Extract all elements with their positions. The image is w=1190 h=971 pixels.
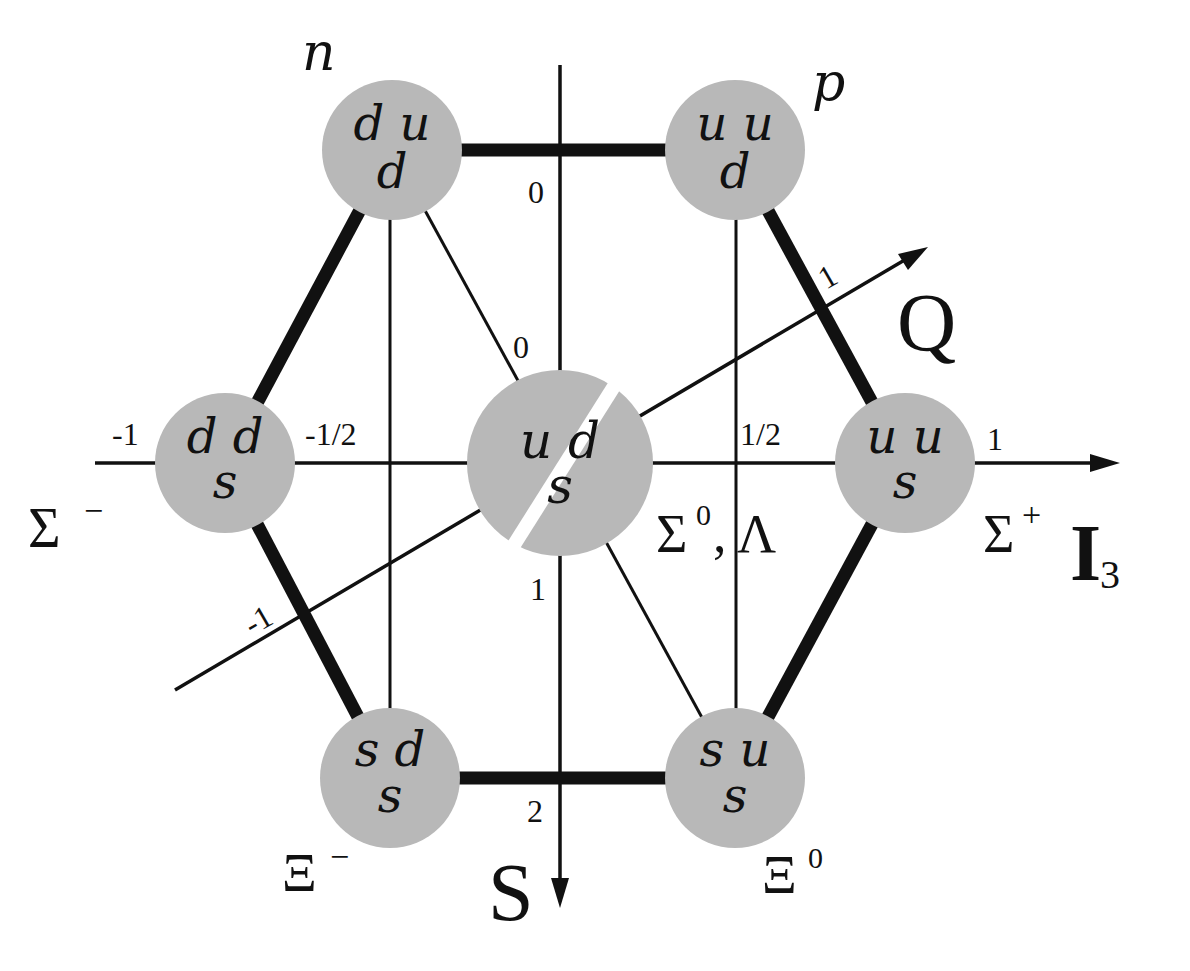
node-sigma-plus: u u s xyxy=(835,393,975,533)
label-xi-minus: Ξ − xyxy=(282,838,349,903)
label-p: p xyxy=(812,52,845,112)
svg-text:Ξ: Ξ xyxy=(762,845,797,905)
axis-title-q: Q xyxy=(897,277,956,368)
tick-q-minus-1: -1 xyxy=(238,598,279,643)
svg-text:s: s xyxy=(213,453,238,509)
axis-title-s: S xyxy=(488,847,534,938)
label-sigma-plus: Σ + xyxy=(983,496,1041,564)
svg-text:s: s xyxy=(893,453,918,509)
svg-text:I: I xyxy=(1070,509,1101,597)
svg-text:−: − xyxy=(84,492,103,529)
node-p: u u d xyxy=(665,80,805,220)
label-sigma0-lambda: Σ 0 , Λ xyxy=(656,498,776,564)
svg-text:0: 0 xyxy=(696,498,711,531)
tick-i3-plus-1: 1 xyxy=(987,421,1003,457)
tick-q-0: 0 xyxy=(513,329,529,365)
axis-title-i3: I 3 xyxy=(1070,509,1120,597)
svg-text:3: 3 xyxy=(1100,552,1120,597)
svg-text:Σ: Σ xyxy=(28,497,61,559)
svg-text:+: + xyxy=(1022,496,1041,533)
svg-text:−: − xyxy=(330,838,349,875)
svg-text:Ξ: Ξ xyxy=(282,843,317,903)
svg-text:d: d xyxy=(720,143,751,199)
baryon-octet-diagram: d u d u u d d d s u d s u u s s d s s u … xyxy=(0,0,1190,971)
label-xi-zero: Ξ 0 xyxy=(762,841,823,905)
node-xi-minus: s d s xyxy=(320,708,460,848)
tick-i3-minus-half: -1/2 xyxy=(305,416,357,452)
svg-text:Σ: Σ xyxy=(983,504,1014,564)
tick-i3-minus-1: -1 xyxy=(112,416,139,452)
node-sigma0-lambda: u d s xyxy=(467,370,653,556)
label-sigma-minus: Σ − xyxy=(28,492,103,559)
svg-text:s: s xyxy=(723,767,748,823)
node-xi-zero: s u s xyxy=(665,708,805,848)
tick-s-2: 2 xyxy=(527,793,543,829)
tick-s-0: 0 xyxy=(528,174,544,210)
tick-i3-plus-half: 1/2 xyxy=(740,416,781,452)
svg-text:, Λ: , Λ xyxy=(713,504,776,564)
tick-s-1: 1 xyxy=(530,571,546,607)
svg-text:Σ: Σ xyxy=(656,504,687,564)
svg-text:d: d xyxy=(377,143,408,199)
svg-text:s: s xyxy=(547,457,573,515)
node-n: d u d xyxy=(322,80,462,220)
label-n: n xyxy=(302,22,336,82)
svg-text:s: s xyxy=(378,767,403,823)
node-sigma-minus: d d s xyxy=(155,393,295,533)
svg-text:0: 0 xyxy=(808,841,823,874)
